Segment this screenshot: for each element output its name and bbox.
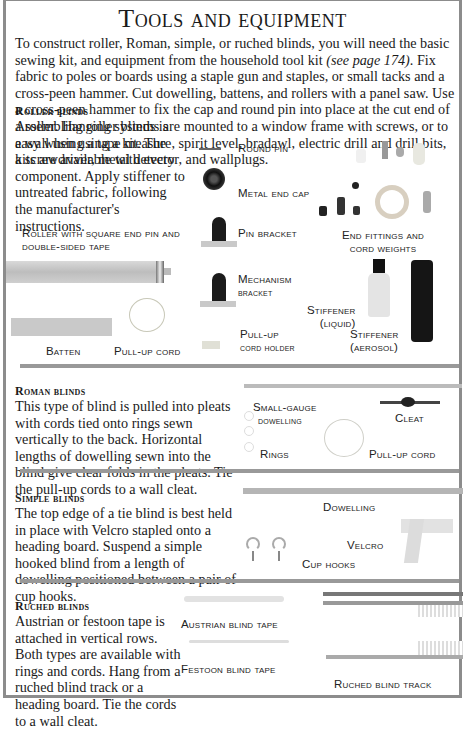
pull-up-cord-image xyxy=(129,298,165,332)
label-ruched-track: Ruched blind track xyxy=(334,678,431,691)
section-divider xyxy=(20,579,459,583)
ring-image xyxy=(244,426,254,436)
cup-hook-image xyxy=(272,537,286,551)
section-text: The top edge of a tie blind is best held… xyxy=(15,505,240,605)
dowelling-image xyxy=(243,488,463,494)
label-line: bracket xyxy=(238,286,292,299)
label-roller: Roller with square end pin and double-si… xyxy=(22,227,192,253)
section-heading: Roller blinds xyxy=(15,104,185,118)
simple-blinds-section: Simple blinds The top edge of a tie blin… xyxy=(15,491,240,605)
label-cord-holder: Pull-upcord holder xyxy=(240,328,295,354)
label-austrian-tape: Austrian blind tape xyxy=(181,618,278,631)
label-line: (liquid) xyxy=(307,317,356,330)
label-line: cord holder xyxy=(240,341,295,354)
pin-bracket-base xyxy=(201,241,237,247)
label-metal-end-cap: Metal end cap xyxy=(238,187,309,200)
label-line: Small-gauge xyxy=(253,401,317,414)
label-velcro: Velcro xyxy=(347,539,383,552)
section-text: Austrian or festoon tape is attached in … xyxy=(15,613,185,729)
roman-blinds-section: Roman blinds This type of blind is pulle… xyxy=(15,384,240,498)
ring-pull-image xyxy=(375,185,409,219)
festoon-tape-image xyxy=(189,640,289,643)
roller-end-cap-image xyxy=(156,261,164,283)
ruched-track-teeth xyxy=(418,605,463,617)
roller-image xyxy=(6,261,161,283)
ring-image xyxy=(244,442,254,452)
section-text: Assembling roller blinds is easy when us… xyxy=(15,118,185,234)
label-pull-up-cord: Pull-up cord xyxy=(369,448,435,461)
label-batten: Batten xyxy=(46,345,81,358)
cleat-image-center xyxy=(401,397,415,407)
cord-weight-image xyxy=(337,197,345,215)
cup-hook-shank xyxy=(252,551,254,561)
cord-holder-image xyxy=(202,341,220,349)
label-stiffener-aerosol: Stiffener(aerosol) xyxy=(350,328,399,354)
end-fitting-image xyxy=(396,147,404,157)
page-title: Tools and equipment xyxy=(6,4,459,34)
label-dowelling: Dowelling xyxy=(323,501,375,514)
cord-weight-image xyxy=(319,206,327,216)
label-round-pin: Round pin xyxy=(238,142,288,155)
label-line: dowelling xyxy=(253,414,317,427)
mechanism-bracket-base xyxy=(200,301,236,307)
section-text: This type of blind is pulled into pleats… xyxy=(15,398,240,498)
ruched-track-image xyxy=(323,592,463,596)
label-line: Stiffener xyxy=(350,328,399,341)
pin-bracket-image xyxy=(212,217,226,241)
label-end-fittings: End fittings and cord weights xyxy=(333,229,433,255)
label-line: Pull-up xyxy=(240,328,295,341)
label-pin-bracket: Pin bracket xyxy=(238,227,297,240)
roller-blinds-section: Roller blinds Assembling roller blinds i… xyxy=(15,104,185,234)
page-frame: Tools and equipment To construct roller,… xyxy=(3,0,462,698)
mechanism-bracket-image xyxy=(212,273,226,301)
section-divider xyxy=(20,364,459,368)
label-mechanism-bracket: Mechanismbracket xyxy=(238,273,292,299)
end-fitting-image xyxy=(413,143,425,165)
section-heading: Ruched blinds xyxy=(15,599,185,613)
end-fitting-image xyxy=(356,149,366,163)
ring-image xyxy=(244,411,254,421)
batten-image xyxy=(11,318,112,336)
end-fitting-image xyxy=(423,191,431,213)
ruched-blinds-section: Ruched blinds Austrian or festoon tape i… xyxy=(15,599,185,729)
section-heading: Simple blinds xyxy=(15,491,240,505)
cord-weight-image xyxy=(353,206,360,215)
label-line: Mechanism xyxy=(238,273,292,286)
label-small-gauge-dowelling: Small-gaugedowelling xyxy=(253,401,317,427)
metal-end-cap-image xyxy=(203,168,225,190)
cord-weight-image xyxy=(352,182,359,189)
liquid-cap-image xyxy=(373,259,385,273)
cup-hook-shank xyxy=(278,551,280,561)
label-stiffener-liquid: Stiffener(liquid) xyxy=(307,304,356,330)
ruched-track-image xyxy=(326,655,463,659)
label-line: (aerosol) xyxy=(350,341,399,354)
stiffener-aerosol-image xyxy=(411,260,433,342)
section-divider xyxy=(20,469,459,473)
ruched-track-teeth xyxy=(418,641,463,655)
label-rings: Rings xyxy=(260,448,289,461)
dowelling-image xyxy=(244,384,462,388)
label-pull-up-cord: Pull-up cord xyxy=(114,345,180,358)
stiffener-liquid-image xyxy=(368,273,390,317)
page-reference: (see page 174) xyxy=(326,52,410,68)
roller-end-pin-image xyxy=(164,268,171,275)
austrian-tape-image xyxy=(184,596,284,602)
cup-hook-image xyxy=(246,537,260,551)
label-cleat: Cleat xyxy=(395,412,424,425)
end-fitting-image xyxy=(382,141,388,159)
label-line: Stiffener xyxy=(307,304,356,317)
section-heading: Roman blinds xyxy=(15,384,240,398)
label-cup-hooks: Cup hooks xyxy=(302,558,355,571)
pull-up-cord-image xyxy=(324,419,364,457)
round-pin-image xyxy=(199,148,221,150)
label-festoon-tape: Festoon blind tape xyxy=(181,663,276,676)
